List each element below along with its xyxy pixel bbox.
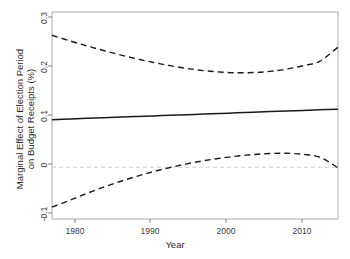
y-axis-label-line1: Marginal Effect of Election Period [14, 9, 25, 229]
plot-frame-border [52, 12, 338, 219]
x-tick-label-1: 1990 [130, 226, 170, 236]
x-axis-tick-marks [75, 219, 302, 223]
x-tick-label-2: 2000 [206, 226, 246, 236]
point-estimate-line [52, 109, 338, 120]
chart-plot-area [0, 0, 350, 259]
y-tick-label-1: 0.2 [39, 54, 49, 80]
y-axis-label: Marginal Effect of Election Period on Bu… [14, 9, 36, 229]
lower-confidence-bound-line [52, 153, 338, 207]
x-tick-label-0: 1980 [55, 226, 95, 236]
figure-container: 0.3 0.2 0.1 0 -0.1 1980 1990 2000 2010 Y… [0, 0, 350, 259]
y-tick-label-2: 0.1 [39, 103, 49, 129]
x-tick-label-3: 2010 [282, 226, 322, 236]
x-axis-label: Year [0, 239, 350, 250]
y-tick-label-3: 0 [39, 152, 49, 178]
y-tick-label-4: -0.1 [39, 199, 49, 229]
y-tick-label-0: 0.3 [39, 5, 49, 31]
y-axis-label-line2: on Budget Receipts (%) [25, 9, 36, 229]
upper-confidence-bound-line [52, 35, 338, 72]
